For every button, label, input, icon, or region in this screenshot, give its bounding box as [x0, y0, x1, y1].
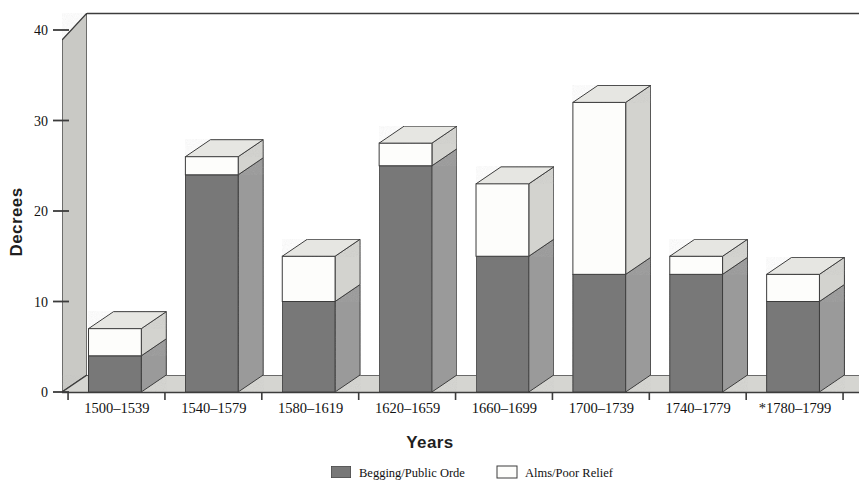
left-wall	[62, 13, 87, 392]
bar-segment-side-begging	[529, 239, 554, 392]
bar-group	[89, 312, 167, 392]
x-axis-label-0: 1500–1539	[84, 400, 149, 416]
bar-segment-side-begging	[723, 257, 748, 392]
bar-segment-front-alms	[379, 143, 432, 166]
legend-item-1: Alms/Poor Relief	[497, 466, 614, 480]
bar-segment-front-begging	[282, 302, 335, 393]
x-axis-label-3: 1620–1659	[375, 400, 440, 416]
y-tick-label-20: 20	[34, 204, 48, 219]
bar-group	[476, 167, 554, 392]
bar-segment-side-begging	[626, 257, 651, 392]
bar-segment-front-begging	[379, 166, 432, 392]
legend-swatch-begging	[331, 466, 351, 478]
x-axis-label-6: 1740–1779	[666, 400, 731, 416]
bar-group	[282, 239, 360, 392]
bar-segment-front-alms	[282, 256, 335, 301]
bar-segment-front-begging	[670, 274, 723, 392]
bar-segment-side-alms	[626, 85, 651, 274]
bar-segment-front-alms	[767, 274, 820, 301]
bar-group	[670, 239, 748, 392]
y-tick-label-0: 0	[41, 385, 48, 400]
x-axis-title: Years	[406, 433, 453, 452]
x-axis-category-labels: 1500–15391540–15791580–16191620–16591660…	[84, 400, 831, 416]
bar-segment-front-begging	[476, 256, 529, 392]
bar-segment-front-alms	[476, 184, 529, 256]
legend-label-alms: Alms/Poor Relief	[525, 466, 614, 480]
bar-segment-side-begging	[819, 285, 844, 393]
bar-segment-side-begging	[238, 158, 263, 392]
x-axis-label-7: *1780–1799	[759, 400, 832, 416]
legend-label-begging: Begging/Public Orde	[359, 466, 465, 480]
y-tick-label-10: 10	[34, 295, 48, 310]
plot-scene: 010203040	[34, 13, 859, 400]
decrees-by-period-3d-stacked-bar-chart: 010203040 1500–15391540–15791580–1619162…	[0, 0, 859, 486]
legend-item-0: Begging/Public Orde	[331, 466, 465, 480]
bar-segment-side-begging	[335, 285, 360, 393]
bar-segment-front-begging	[89, 356, 142, 392]
x-axis-label-2: 1580–1619	[278, 400, 343, 416]
bar-group	[185, 140, 263, 392]
y-tick-label-40: 40	[34, 23, 48, 38]
bar-segment-front-alms	[89, 329, 142, 356]
legend: Begging/Public OrdeAlms/Poor Relief	[331, 466, 614, 480]
bar-segment-front-begging	[573, 274, 626, 392]
x-axis-label-4: 1660–1699	[472, 400, 537, 416]
x-axis-label-5: 1700–1739	[569, 400, 634, 416]
bar-segment-side-begging	[432, 149, 457, 392]
bar-group	[379, 126, 457, 392]
bar-segment-front-alms	[185, 157, 238, 175]
chart-container: 010203040 1500–15391540–15791580–1619162…	[0, 0, 859, 486]
bar-segment-front-begging	[185, 175, 238, 392]
bar-segment-front-alms	[573, 102, 626, 274]
bar-group	[573, 85, 651, 392]
legend-swatch-alms	[497, 466, 517, 478]
bar-group	[767, 257, 845, 392]
y-axis-title: Decrees	[7, 188, 26, 257]
y-tick-label-30: 30	[34, 114, 48, 129]
x-axis-label-1: 1540–1579	[181, 400, 246, 416]
bar-segment-front-alms	[670, 256, 723, 274]
bar-segment-front-begging	[767, 302, 820, 393]
